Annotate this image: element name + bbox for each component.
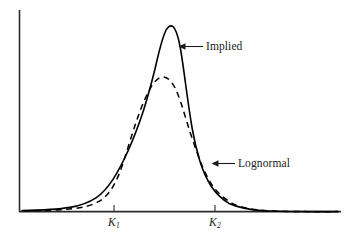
k2-base: K — [209, 216, 217, 228]
x-axis-tick-label-k2: K2 — [209, 216, 220, 228]
implied-vs-lognormal-distribution-figure: Implied Lognormal K1 K2 — [0, 0, 358, 241]
k1-subscript: 1 — [116, 221, 120, 230]
implied-curve-label: Implied — [206, 40, 242, 52]
lognormal-annotation-arrow — [212, 160, 236, 166]
k1-base: K — [108, 216, 116, 228]
lognormal-density-curve — [24, 77, 338, 212]
implied-annotation-arrow — [179, 43, 204, 49]
x-axis-tick-label-k1: K1 — [108, 216, 119, 228]
k2-subscript: 2 — [217, 221, 221, 230]
plot-canvas — [0, 0, 358, 241]
implied-density-curve — [22, 26, 338, 212]
lognormal-curve-label: Lognormal — [238, 157, 290, 169]
